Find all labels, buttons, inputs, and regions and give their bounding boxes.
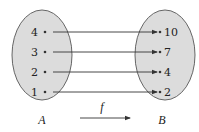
codomain-element: 10 [164, 26, 178, 39]
codomain-element: 4 [164, 66, 171, 79]
domain-element: 1 [31, 86, 38, 99]
function-diagram: 4 3 2 1 A 10 7 4 2 B f [0, 0, 199, 132]
codomain-element: 7 [164, 46, 171, 59]
codomain-point [159, 51, 162, 54]
set-a-label: A [37, 113, 46, 127]
domain-point [44, 91, 47, 94]
codomain-point [159, 31, 162, 34]
function-indicator: f [80, 100, 130, 118]
codomain-point [159, 71, 162, 74]
domain-element: 2 [31, 66, 38, 79]
set-b: 10 7 4 2 B [135, 10, 195, 127]
set-a: 4 3 2 1 A [12, 10, 72, 127]
domain-point [44, 71, 47, 74]
domain-element: 3 [31, 46, 38, 59]
codomain-point [159, 91, 162, 94]
domain-point [44, 51, 47, 54]
domain-element: 4 [31, 26, 38, 39]
set-b-label: B [158, 113, 166, 127]
function-label: f [100, 100, 105, 114]
set-a-ellipse [12, 10, 72, 100]
codomain-element: 2 [164, 86, 171, 99]
domain-point [44, 31, 47, 34]
